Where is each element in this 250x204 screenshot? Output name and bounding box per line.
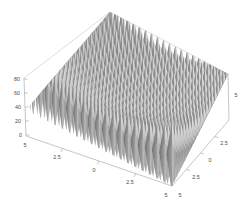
surface-plot-figure: 80 60 40 20 0 5 2.5 0 2.5 5 5 2.5 0 2.5 … (0, 0, 250, 204)
surface-peak (44, 66, 51, 125)
surface-peak (27, 47, 33, 111)
surface-peak (30, 53, 37, 117)
z-tick-label-60: 60 (14, 90, 20, 96)
z-tick-label-80: 80 (14, 76, 20, 82)
surface-peak (37, 60, 44, 121)
x-tick-label-5: 5 (165, 192, 168, 198)
x-tick-label-2p5: 2.5 (126, 179, 134, 185)
y-tick-label-2p5: 2.5 (220, 140, 228, 146)
y-tick-label-5: 5 (235, 92, 238, 98)
y-tick-label-neg2p5: 2.5 (192, 174, 200, 180)
z-tick-label-0: 0 (19, 132, 22, 138)
surface-peak (23, 46, 29, 113)
plot-canvas: 80 60 40 20 0 5 2.5 0 2.5 5 5 2.5 0 2.5 … (0, 0, 250, 204)
x-tick-label-0: 0 (93, 167, 96, 173)
surface-mesh (23, 0, 235, 192)
x-tick-label-neg5: 5 (24, 142, 27, 148)
z-tick-label-20: 20 (15, 118, 21, 124)
x-tick-label-neg2p5: 2.5 (53, 154, 61, 160)
y-tick-label-0: 0 (209, 157, 212, 163)
z-tick-label-40: 40 (15, 104, 21, 110)
y-tick-label-neg5: 5 (179, 192, 182, 198)
